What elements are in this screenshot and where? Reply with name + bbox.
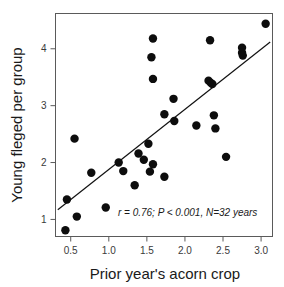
y-tick-label: 2 xyxy=(41,157,47,168)
data-point xyxy=(114,158,122,166)
data-point xyxy=(208,80,216,88)
data-point xyxy=(130,181,138,189)
data-point xyxy=(149,75,157,83)
data-point xyxy=(70,134,78,142)
statistics-annotation: r = 0.76; P < 0.001, N=32 years xyxy=(118,207,257,218)
data-point xyxy=(206,36,214,44)
data-point xyxy=(102,203,110,211)
data-point xyxy=(210,111,218,119)
data-point xyxy=(160,173,168,181)
data-point xyxy=(61,226,69,234)
x-tick-label: 1.0 xyxy=(102,245,116,256)
x-tick-label: 2.0 xyxy=(178,245,192,256)
x-tick-label: 3.0 xyxy=(254,245,268,256)
data-point xyxy=(149,34,157,42)
x-tick-label: 0.5 xyxy=(64,245,78,256)
data-point xyxy=(119,167,127,175)
data-point xyxy=(160,110,168,118)
data-point xyxy=(211,124,219,132)
data-point xyxy=(239,51,247,59)
data-point xyxy=(149,160,157,168)
data-point xyxy=(144,140,152,148)
y-tick-label: 3 xyxy=(41,100,47,111)
scatter-plot-figure: 0.51.01.52.02.53.0 1234 r = 0.76; P < 0.… xyxy=(0,0,284,287)
x-axis-label: Prior year's acorn crop xyxy=(90,265,240,282)
data-point xyxy=(87,169,95,177)
y-tick-label: 1 xyxy=(41,214,47,225)
y-axis-label: Young fleged per group xyxy=(8,47,25,202)
data-point xyxy=(73,212,81,220)
x-tick-label: 2.5 xyxy=(216,245,230,256)
data-point xyxy=(147,53,155,61)
data-point xyxy=(261,20,269,28)
y-tick-label: 4 xyxy=(41,43,47,54)
data-point xyxy=(140,156,148,164)
data-point xyxy=(169,95,177,103)
data-point xyxy=(170,117,178,125)
data-point xyxy=(222,153,230,161)
data-point xyxy=(63,195,71,203)
data-point xyxy=(146,167,154,175)
x-tick-label: 1.5 xyxy=(140,245,154,256)
data-point xyxy=(192,121,200,129)
chart-canvas: 0.51.01.52.02.53.0 1234 r = 0.76; P < 0.… xyxy=(0,0,284,287)
